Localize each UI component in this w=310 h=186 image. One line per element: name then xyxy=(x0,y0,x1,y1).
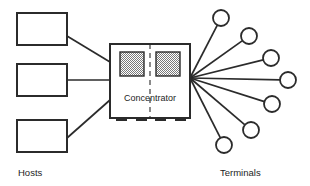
terminal-6[interactable] xyxy=(243,122,259,138)
terminal-link-3 xyxy=(190,60,263,78)
concentrator-group[interactable]: Concentrator xyxy=(110,44,190,121)
terminal-link-6 xyxy=(190,78,245,125)
host-boxes-group xyxy=(17,13,67,152)
host-box-1[interactable] xyxy=(17,13,67,45)
terminal-5[interactable] xyxy=(264,96,280,112)
host-link-1 xyxy=(67,36,110,62)
terminal-nodes-group xyxy=(213,10,296,153)
concentrator-foot-4 xyxy=(175,118,186,121)
terminal-link-5 xyxy=(190,78,264,102)
host-links-group xyxy=(67,36,110,138)
terminal-4[interactable] xyxy=(280,72,296,88)
terminal-link-1 xyxy=(190,25,217,78)
concentrator-module-right[interactable] xyxy=(156,52,180,76)
diagram-canvas: Concentrator Hosts Terminals xyxy=(0,0,310,186)
terminal-3[interactable] xyxy=(263,50,279,66)
terminal-1[interactable] xyxy=(213,10,229,26)
terminal-link-4 xyxy=(190,78,280,80)
host-link-3 xyxy=(67,100,110,138)
concentrator-label: Concentrator xyxy=(124,93,176,103)
concentrator-module-left[interactable] xyxy=(120,52,144,76)
terminal-links-group xyxy=(190,25,280,138)
terminals-caption: Terminals xyxy=(220,167,261,178)
terminal-2[interactable] xyxy=(241,28,257,44)
network-topology-diagram: Concentrator Hosts Terminals xyxy=(0,0,310,186)
terminal-7[interactable] xyxy=(216,137,232,153)
concentrator-foot-3 xyxy=(155,118,166,121)
concentrator-foot-2 xyxy=(136,118,147,121)
host-box-3[interactable] xyxy=(17,120,67,152)
hosts-caption: Hosts xyxy=(18,167,43,178)
host-box-2[interactable] xyxy=(17,64,67,96)
concentrator-foot-1 xyxy=(116,118,127,121)
